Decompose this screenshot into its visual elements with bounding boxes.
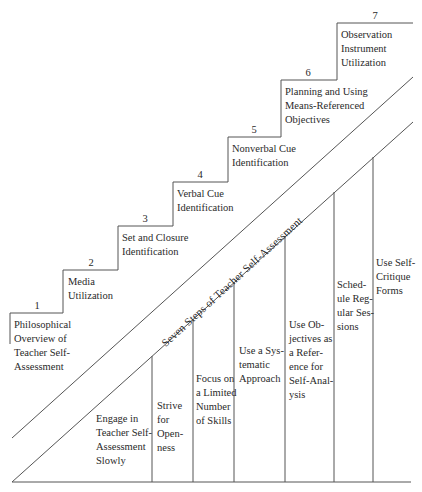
label-line: Strive [157,399,183,413]
label-line: Use Self- [376,256,415,270]
step-label-6: Planning and Using Means-Referenced Obje… [285,85,368,127]
pillar-label-6: Sched- ule Reg- ular Ses- sions [337,278,374,334]
label-line: Assessment [14,360,71,374]
label-line: tematic [239,358,284,372]
label-line: ysis [289,388,333,402]
step-number: 3 [135,213,155,225]
label-line: Number [196,400,237,414]
label-line: Instrument [341,42,392,56]
label-line: jectives as [289,332,333,346]
step-number: 5 [244,124,264,136]
label-line: Slowly [96,454,152,468]
pillar-label-1: Engage in Teacher Self- Assessment Slowl… [96,412,152,468]
label-line: Critique [376,270,415,284]
label-line: ular Ses- [337,306,374,320]
label-line: Sched- [337,278,374,292]
label-line: sions [337,320,374,334]
pillar-label-3: Focus on a Limited Number of Skills [196,372,237,428]
label-line: Self-Anal- [289,374,333,388]
step-number: 7 [365,10,385,22]
label-line: Overview of [14,332,71,346]
label-line: Observation [341,28,392,42]
step-number: 1 [27,300,47,312]
step-number: 2 [81,257,101,269]
label-line: Identification [122,245,189,259]
label-line: Verbal Cue [177,187,234,201]
label-line: ule Reg- [337,292,374,306]
label-line: a Refer- [289,346,333,360]
label-line: Assessment [96,440,152,454]
label-line: Utilization [68,289,113,303]
label-line: Philosophical [14,318,71,332]
pillar-label-7: Use Self- Critique Forms [376,256,415,298]
label-line: Teacher Self- [14,346,71,360]
step-label-2: Media Utilization [68,275,113,303]
label-line: Approach [239,372,284,386]
label-line: a Limited [196,386,237,400]
label-line: ence for [289,360,333,374]
label-line: Set and Closure [122,231,189,245]
label-line: Identification [177,201,234,215]
label-line: Forms [376,284,415,298]
label-line: ness [157,441,183,455]
label-line: Open- [157,427,183,441]
label-line: Means-Referenced [285,99,368,113]
label-line: for [157,413,183,427]
step-number: 4 [190,169,210,181]
label-line: Teacher Self- [96,426,152,440]
pillar-label-5: Use Ob- jectives as a Refer- ence for Se… [289,318,333,402]
label-line: Nonverbal Cue [232,142,296,156]
label-line: Use Ob- [289,318,333,332]
step-number: 6 [298,67,318,79]
label-line: Planning and Using [285,85,368,99]
label-line: Focus on [196,372,237,386]
label-line: Identification [232,156,296,170]
step-label-7: Observation Instrument Utilization [341,28,392,70]
label-line: Media [68,275,113,289]
pillar-label-4: Use a Sys- tematic Approach [239,344,284,386]
label-line: Utilization [341,56,392,70]
step-label-4: Verbal Cue Identification [177,187,234,215]
label-line: Use a Sys- [239,344,284,358]
label-line: Objectives [285,113,368,127]
label-line: Engage in [96,412,152,426]
label-line: of Skills [196,414,237,428]
step-label-3: Set and Closure Identification [122,231,189,259]
step-label-5: Nonverbal Cue Identification [232,142,296,170]
step-label-1: Philosophical Overview of Teacher Self- … [14,318,71,374]
pillar-label-2: Strive for Open- ness [157,399,183,455]
